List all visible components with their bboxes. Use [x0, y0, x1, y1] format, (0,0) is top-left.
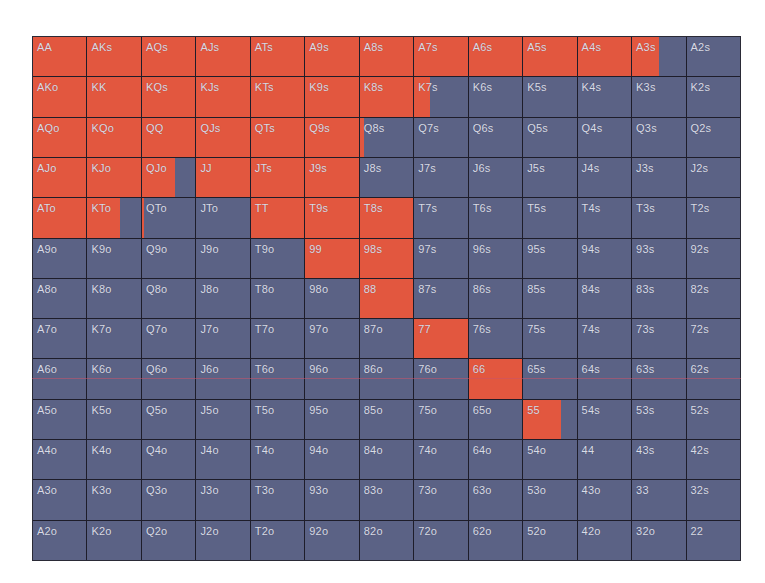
hand-cell[interactable]: 65o	[469, 400, 522, 439]
hand-cell[interactable]: K2s	[687, 77, 740, 116]
hand-cell[interactable]: T7o	[251, 319, 304, 358]
hand-cell[interactable]: Q7s	[414, 118, 467, 157]
hand-cell[interactable]: ATo	[33, 198, 86, 237]
hand-cell[interactable]: 22	[687, 521, 740, 560]
hand-cell[interactable]: JJ	[196, 158, 249, 197]
hand-cell[interactable]: 62o	[469, 521, 522, 560]
hand-cell[interactable]: A7s	[414, 37, 467, 76]
hand-cell[interactable]: A9o	[33, 239, 86, 278]
hand-cell[interactable]: J5o	[196, 400, 249, 439]
hand-cell[interactable]: K8o	[87, 279, 140, 318]
hand-cell[interactable]: 32o	[632, 521, 685, 560]
hand-cell[interactable]: 55	[523, 400, 576, 439]
hand-cell[interactable]: J5s	[523, 158, 576, 197]
hand-cell[interactable]: K4o	[87, 440, 140, 479]
hand-cell[interactable]: 66	[469, 359, 522, 398]
hand-cell[interactable]: J8s	[360, 158, 413, 197]
hand-cell[interactable]: T2s	[687, 198, 740, 237]
hand-cell[interactable]: T3o	[251, 480, 304, 519]
hand-cell[interactable]: QJs	[196, 118, 249, 157]
hand-cell[interactable]: KJo	[87, 158, 140, 197]
hand-cell[interactable]: KK	[87, 77, 140, 116]
hand-cell[interactable]: 63s	[632, 359, 685, 398]
hand-cell[interactable]: T4s	[578, 198, 631, 237]
hand-cell[interactable]: 42o	[578, 521, 631, 560]
hand-cell[interactable]: 99	[305, 239, 358, 278]
hand-cell[interactable]: JTo	[196, 198, 249, 237]
hand-cell[interactable]: 87s	[414, 279, 467, 318]
hand-cell[interactable]: 33	[632, 480, 685, 519]
hand-cell[interactable]: 75o	[414, 400, 467, 439]
hand-cell[interactable]: K8s	[360, 77, 413, 116]
hand-cell[interactable]: TT	[251, 198, 304, 237]
hand-cell[interactable]: 73s	[632, 319, 685, 358]
hand-cell[interactable]: J2s	[687, 158, 740, 197]
hand-cell[interactable]: Q9o	[142, 239, 195, 278]
hand-cell[interactable]: 97s	[414, 239, 467, 278]
hand-cell[interactable]: 72o	[414, 521, 467, 560]
hand-cell[interactable]: T9o	[251, 239, 304, 278]
hand-cell[interactable]: J4s	[578, 158, 631, 197]
hand-cell[interactable]: 62s	[687, 359, 740, 398]
hand-cell[interactable]: Q3s	[632, 118, 685, 157]
hand-cell[interactable]: T2o	[251, 521, 304, 560]
hand-cell[interactable]: 53o	[523, 480, 576, 519]
hand-cell[interactable]: 76s	[469, 319, 522, 358]
hand-cell[interactable]: Q3o	[142, 480, 195, 519]
hand-cell[interactable]: 83o	[360, 480, 413, 519]
hand-cell[interactable]: Q5o	[142, 400, 195, 439]
hand-cell[interactable]: K7o	[87, 319, 140, 358]
hand-cell[interactable]: A6s	[469, 37, 522, 76]
hand-cell[interactable]: 74s	[578, 319, 631, 358]
hand-cell[interactable]: 64o	[469, 440, 522, 479]
hand-cell[interactable]: J6s	[469, 158, 522, 197]
hand-cell[interactable]: T3s	[632, 198, 685, 237]
hand-cell[interactable]: 32s	[687, 480, 740, 519]
hand-cell[interactable]: 63o	[469, 480, 522, 519]
hand-cell[interactable]: A3s	[632, 37, 685, 76]
hand-cell[interactable]: 92s	[687, 239, 740, 278]
hand-cell[interactable]: AJs	[196, 37, 249, 76]
hand-cell[interactable]: 75s	[523, 319, 576, 358]
hand-cell[interactable]: 93s	[632, 239, 685, 278]
hand-cell[interactable]: K5o	[87, 400, 140, 439]
hand-cell[interactable]: 85s	[523, 279, 576, 318]
hand-cell[interactable]: K3o	[87, 480, 140, 519]
hand-cell[interactable]: 64s	[578, 359, 631, 398]
hand-cell[interactable]: QTo	[142, 198, 195, 237]
hand-cell[interactable]: A7o	[33, 319, 86, 358]
hand-cell[interactable]: 52o	[523, 521, 576, 560]
hand-cell[interactable]: ATs	[251, 37, 304, 76]
hand-cell[interactable]: 94o	[305, 440, 358, 479]
hand-cell[interactable]: K9o	[87, 239, 140, 278]
hand-cell[interactable]: 44	[578, 440, 631, 479]
hand-cell[interactable]: AQo	[33, 118, 86, 157]
hand-cell[interactable]: 74o	[414, 440, 467, 479]
hand-cell[interactable]: T9s	[305, 198, 358, 237]
hand-cell[interactable]: 93o	[305, 480, 358, 519]
hand-cell[interactable]: 83s	[632, 279, 685, 318]
hand-cell[interactable]: A5s	[523, 37, 576, 76]
hand-cell[interactable]: 82o	[360, 521, 413, 560]
hand-cell[interactable]: AKo	[33, 77, 86, 116]
hand-cell[interactable]: A8s	[360, 37, 413, 76]
hand-cell[interactable]: 72s	[687, 319, 740, 358]
hand-cell[interactable]: T8o	[251, 279, 304, 318]
hand-cell[interactable]: 73o	[414, 480, 467, 519]
hand-cell[interactable]: T7s	[414, 198, 467, 237]
hand-cell[interactable]: K9s	[305, 77, 358, 116]
hand-cell[interactable]: 86s	[469, 279, 522, 318]
hand-cell[interactable]: Q2s	[687, 118, 740, 157]
hand-cell[interactable]: KQs	[142, 77, 195, 116]
hand-cell[interactable]: K2o	[87, 521, 140, 560]
hand-cell[interactable]: A4s	[578, 37, 631, 76]
hand-cell[interactable]: T5s	[523, 198, 576, 237]
hand-cell[interactable]: Q8o	[142, 279, 195, 318]
hand-cell[interactable]: JTs	[251, 158, 304, 197]
hand-cell[interactable]: Q4s	[578, 118, 631, 157]
hand-cell[interactable]: K6s	[469, 77, 522, 116]
hand-cell[interactable]: A2s	[687, 37, 740, 76]
hand-cell[interactable]: 87o	[360, 319, 413, 358]
hand-cell[interactable]: J3s	[632, 158, 685, 197]
hand-cell[interactable]: 96o	[305, 359, 358, 398]
